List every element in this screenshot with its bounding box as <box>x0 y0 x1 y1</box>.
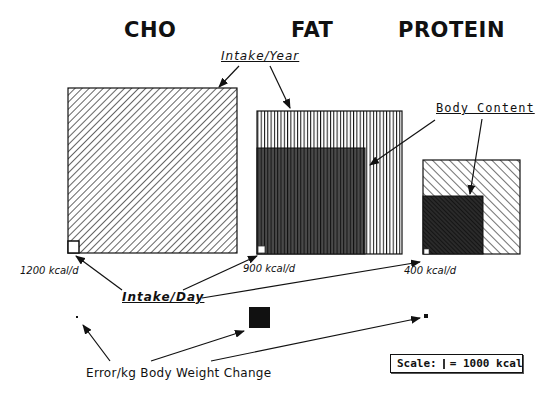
header-cho: CHO <box>124 18 176 42</box>
cho-intake-day-square <box>68 241 79 253</box>
fat-kcal-label: 900 kcal/d <box>243 263 295 274</box>
intake-day-arrow-protein <box>202 262 420 298</box>
scale-square-icon <box>443 359 445 369</box>
cho-kcal-label: 1200 kcal/d <box>20 265 79 276</box>
scale-legend: Scale: = 1000 kcal <box>390 354 523 373</box>
protein-intake-day-square <box>424 249 429 254</box>
header-fat: FAT <box>291 18 333 42</box>
header-protein: PROTEIN <box>398 18 505 42</box>
fat-error-square <box>249 307 270 328</box>
intake-day-arrow-cho <box>76 256 122 290</box>
intake-day-label: Intake/Day <box>122 290 204 304</box>
intake-year-arrow-cho <box>219 66 239 87</box>
error-label: Error/kg Body Weight Change <box>86 366 271 380</box>
protein-body-content-square <box>423 196 483 254</box>
error-arrow-cho <box>83 325 110 361</box>
fat-intake-day-square <box>258 246 265 253</box>
scale-suffix: = 1000 kcal <box>450 357 523 370</box>
intake-year-label: Intake/Year <box>221 49 299 63</box>
fat-body-content-square <box>257 148 365 254</box>
protein-intake-year-square <box>423 160 520 254</box>
cho-intake-year-square <box>68 88 237 253</box>
intake-year-arrow-fat <box>270 66 290 108</box>
fat-intake-year-square <box>257 111 402 254</box>
protein-kcal-label: 400 kcal/d <box>404 265 456 276</box>
protein-error-dot <box>424 314 428 318</box>
scale-prefix: Scale: <box>397 357 437 370</box>
body-content-label: Body Content <box>436 101 535 115</box>
error-arrow-protein <box>211 318 420 361</box>
cho-error-dot <box>76 316 78 318</box>
